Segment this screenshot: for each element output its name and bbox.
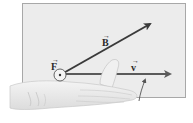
v-label: → v	[131, 63, 136, 73]
f-label: → F	[51, 62, 57, 72]
right-hand-rule-diagram	[0, 0, 193, 123]
b-label: → B	[102, 38, 109, 48]
v-vector-mark: →	[132, 58, 139, 65]
f-vector-mark: →	[52, 57, 59, 64]
b-vector-mark: →	[103, 33, 110, 40]
